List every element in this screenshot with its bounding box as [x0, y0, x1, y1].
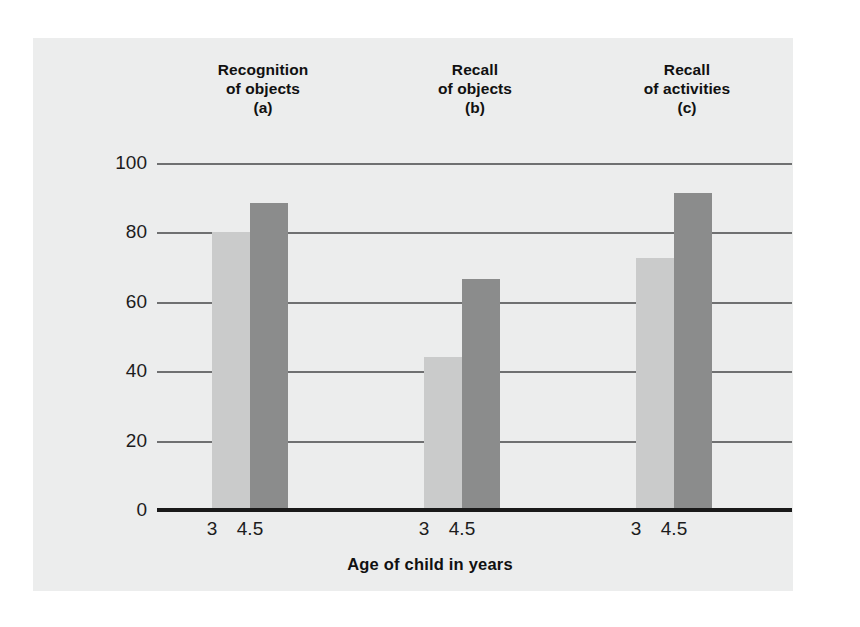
- group-header-b: Recall of objects (b): [369, 60, 581, 117]
- bar-a-age-3: [212, 232, 250, 510]
- x-tick-label-b-3: 3: [404, 518, 444, 540]
- x-tick-label-c-4-5: 4.5: [653, 518, 695, 540]
- y-tick-label-40: 40: [95, 360, 147, 382]
- group-header-c-line-3: (c): [581, 98, 793, 117]
- x-axis-line: [157, 508, 792, 512]
- y-tick-label-80: 80: [95, 221, 147, 243]
- y-tick-label-20: 20: [95, 430, 147, 452]
- group-header-a: Recognition of objects (a): [157, 60, 369, 117]
- group-header-a-line-2: of objects: [157, 79, 369, 98]
- bar-c-age-4-5: [674, 193, 712, 511]
- x-tick-label-a-3: 3: [192, 518, 232, 540]
- x-tick-label-b-4-5: 4.5: [441, 518, 483, 540]
- group-header-a-line-1: Recognition: [157, 60, 369, 79]
- bar-b-age-3: [424, 357, 462, 510]
- bar-chart-figure: Recognition of objects (a) Recall of obj…: [0, 0, 860, 627]
- x-axis-title: Age of child in years: [0, 555, 860, 574]
- y-tick-label-100: 100: [95, 152, 147, 174]
- x-tick-label-a-4-5: 4.5: [229, 518, 271, 540]
- group-header-a-line-3: (a): [157, 98, 369, 117]
- group-header-b-line-3: (b): [369, 98, 581, 117]
- group-header-c: Recall of activities (c): [581, 60, 793, 117]
- bar-c-age-3: [636, 258, 674, 510]
- x-tick-label-c-3: 3: [616, 518, 656, 540]
- bar-a-age-4-5: [250, 203, 288, 510]
- plot-area: [157, 163, 792, 510]
- group-header-c-line-1: Recall: [581, 60, 793, 79]
- bar-b-age-4-5: [462, 279, 500, 510]
- group-header-b-line-2: of objects: [369, 79, 581, 98]
- y-tick-label-60: 60: [95, 291, 147, 313]
- group-header-c-line-2: of activities: [581, 79, 793, 98]
- group-header-b-line-1: Recall: [369, 60, 581, 79]
- y-tick-label-0: 0: [95, 499, 147, 521]
- y-axis-title: Percent of correct responses: [0, 0, 1, 404]
- gridline-100: [157, 163, 792, 165]
